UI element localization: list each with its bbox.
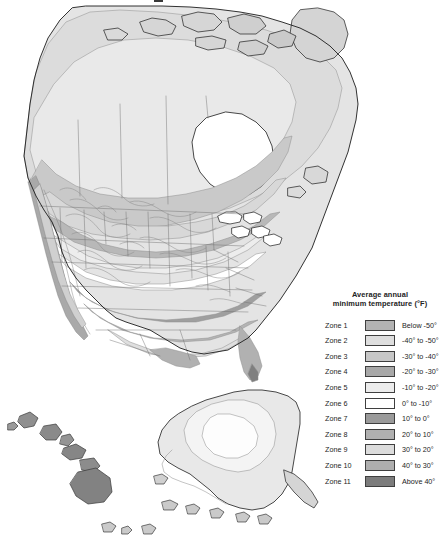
legend-row: Zone 710° to 0° bbox=[325, 411, 437, 427]
legend-title-line-2: minimum temperature (°F) bbox=[325, 299, 435, 308]
legend-range-label: 40° to 30° bbox=[395, 461, 434, 470]
legend-row: Zone 930° to 20° bbox=[325, 442, 437, 458]
legend-range-label: -40° to -50° bbox=[395, 336, 439, 345]
cropped-title-fragment: . bbox=[154, 0, 163, 2]
legend-zone-label: Zone 9 bbox=[325, 445, 365, 454]
legend-title: Average annual minimum temperature (°F) bbox=[325, 290, 437, 308]
legend-row: Zone 3-30° to -40° bbox=[325, 349, 437, 365]
legend-color-swatch bbox=[365, 460, 395, 471]
legend-range-label: -30° to -40° bbox=[395, 352, 439, 361]
legend-row: Zone 11Above 40° bbox=[325, 473, 437, 489]
legend-color-swatch bbox=[365, 476, 395, 487]
legend-color-swatch bbox=[365, 413, 395, 424]
legend-row: Zone 5-10° to -20° bbox=[325, 380, 437, 396]
legend-zone-label: Zone 10 bbox=[325, 461, 365, 470]
legend-color-swatch bbox=[365, 320, 395, 331]
legend-color-swatch bbox=[365, 335, 395, 346]
legend-range-label: 30° to 20° bbox=[395, 445, 434, 454]
legend-rows: Zone 1Below -50°Zone 2-40° to -50°Zone 3… bbox=[325, 317, 437, 489]
legend-color-swatch bbox=[365, 366, 395, 377]
legend-range-label: -20° to -30° bbox=[395, 367, 439, 376]
legend-color-swatch bbox=[365, 444, 395, 455]
legend-row: Zone 820° to 10° bbox=[325, 427, 437, 443]
legend-zone-label: Zone 5 bbox=[325, 383, 365, 392]
map-legend: Average annual minimum temperature (°F) … bbox=[325, 290, 437, 489]
legend-row: Zone 4-20° to -30° bbox=[325, 364, 437, 380]
legend-range-label: Below -50° bbox=[395, 321, 437, 330]
legend-range-label: -10° to -20° bbox=[395, 383, 439, 392]
legend-row: Zone 1Below -50° bbox=[325, 317, 437, 333]
legend-row: Zone 1040° to 30° bbox=[325, 458, 437, 474]
legend-range-label: 0° to -10° bbox=[395, 399, 432, 408]
legend-zone-label: Zone 2 bbox=[325, 336, 365, 345]
legend-zone-label: Zone 1 bbox=[325, 321, 365, 330]
legend-zone-label: Zone 11 bbox=[325, 477, 365, 486]
legend-zone-label: Zone 3 bbox=[325, 352, 365, 361]
legend-range-label: 20° to 10° bbox=[395, 430, 434, 439]
legend-color-swatch bbox=[365, 351, 395, 362]
legend-color-swatch bbox=[365, 398, 395, 409]
legend-row: Zone 2-40° to -50° bbox=[325, 333, 437, 349]
legend-zone-label: Zone 8 bbox=[325, 430, 365, 439]
legend-range-label: 10° to 0° bbox=[395, 414, 430, 423]
alaska-inset bbox=[102, 390, 318, 534]
legend-zone-label: Zone 4 bbox=[325, 367, 365, 376]
legend-color-swatch bbox=[365, 429, 395, 440]
legend-color-swatch bbox=[365, 382, 395, 393]
legend-row: Zone 60° to -10° bbox=[325, 395, 437, 411]
legend-zone-label: Zone 7 bbox=[325, 414, 365, 423]
legend-title-line-1: Average annual bbox=[325, 290, 435, 299]
hawaii-inset bbox=[8, 412, 112, 504]
legend-zone-label: Zone 6 bbox=[325, 399, 365, 408]
legend-range-label: Above 40° bbox=[395, 477, 435, 486]
